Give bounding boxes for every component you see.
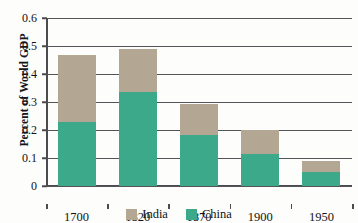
bar-segment-india[interactable]	[58, 55, 96, 122]
bar-segment-china[interactable]	[241, 154, 279, 186]
legend-item[interactable]: China	[186, 207, 232, 222]
bars-layer	[46, 18, 352, 186]
chart-legend: IndiaChina	[0, 207, 358, 222]
bar-group[interactable]	[241, 130, 279, 186]
china-swatch	[186, 209, 197, 220]
bar-segment-india[interactable]	[302, 161, 340, 172]
y-tick-label: 0.4	[0, 68, 42, 80]
legend-label: China	[202, 207, 232, 222]
bar-group[interactable]	[58, 55, 96, 186]
bar-segment-china[interactable]	[180, 135, 218, 186]
bar-group[interactable]	[119, 49, 157, 186]
y-tick-label: 0.6	[0, 12, 42, 24]
bar-segment-india[interactable]	[119, 49, 157, 92]
gridline	[46, 186, 352, 187]
bar-segment-china[interactable]	[302, 172, 340, 186]
bar-segment-china[interactable]	[58, 122, 96, 186]
plot-area: 0.60.50.40.30.20.10 17001820187019001950	[46, 18, 352, 186]
y-tick-label: 0.2	[0, 124, 42, 136]
y-tick-label: 0.5	[0, 40, 42, 52]
legend-label: India	[142, 207, 168, 222]
chart-screenshot: Percent of World GDP 0.60.50.40.30.20.10…	[0, 0, 358, 223]
bar-group[interactable]	[302, 161, 340, 186]
legend-item[interactable]: India	[126, 207, 168, 222]
bar-segment-india[interactable]	[180, 104, 218, 135]
y-tick-label: 0	[0, 180, 42, 192]
bar-segment-india[interactable]	[241, 130, 279, 154]
y-tick-label: 0.1	[0, 152, 42, 164]
india-swatch	[126, 209, 137, 220]
bar-segment-china[interactable]	[119, 92, 157, 186]
bar-group[interactable]	[180, 104, 218, 186]
y-tick-label: 0.3	[0, 96, 42, 108]
